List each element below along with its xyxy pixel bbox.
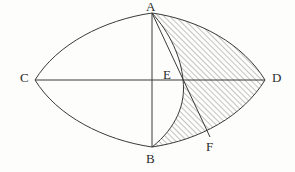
point-label-d: D xyxy=(272,71,281,84)
geometry-figure: A B C D E F xyxy=(0,0,295,172)
arc-c-a xyxy=(35,13,152,80)
point-label-e: E xyxy=(163,68,171,81)
arc-c-b xyxy=(35,80,152,147)
point-label-a: A xyxy=(146,0,155,13)
geometry-canvas xyxy=(0,0,295,172)
point-label-c: C xyxy=(20,71,29,84)
point-label-f: F xyxy=(206,140,213,153)
point-label-b: B xyxy=(146,152,155,165)
